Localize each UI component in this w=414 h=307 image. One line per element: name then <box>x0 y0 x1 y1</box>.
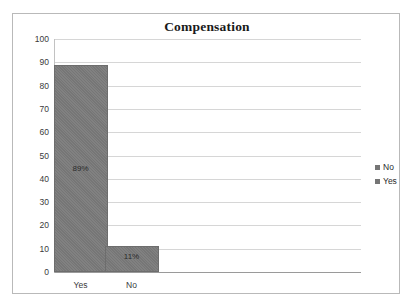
y-axis-tick-label: 0 <box>44 267 49 277</box>
y-axis-tick-label: 60 <box>40 127 49 137</box>
legend-swatch-icon <box>375 165 380 170</box>
plot-area: 010203040506070809010089%Yes11%No <box>54 39 361 273</box>
y-axis-tick-label: 10 <box>40 244 49 254</box>
legend-item-no[interactable]: No <box>375 160 409 174</box>
y-axis-tick-label: 40 <box>40 174 49 184</box>
bar-value-label: 11% <box>106 252 158 261</box>
page-cutoff-text-line: · · · · · · · · · · · · · · <box>10 0 92 3</box>
x-axis-tick-label: Yes <box>74 280 88 290</box>
legend-item-label: No <box>383 163 394 172</box>
legend-swatch-icon <box>375 179 380 184</box>
legend-item-label: Yes <box>383 177 397 186</box>
y-axis-tick-label: 80 <box>40 81 49 91</box>
gridline <box>55 39 361 40</box>
legend-item-yes[interactable]: Yes <box>375 174 409 188</box>
y-axis-tick-label: 20 <box>40 220 49 230</box>
chart-legend: NoYes <box>375 160 409 188</box>
y-axis-tick-label: 50 <box>40 151 49 161</box>
bar-no[interactable]: 11% <box>105 246 159 272</box>
bar-yes[interactable]: 89% <box>54 65 108 272</box>
y-axis-tick-label: 90 <box>40 57 49 67</box>
chart-title: Compensation <box>13 19 401 35</box>
chart-figure: Compensation 010203040506070809010089%Ye… <box>12 13 400 294</box>
bar-value-label: 89% <box>55 164 107 173</box>
y-axis-tick-label: 100 <box>35 34 49 44</box>
gridline <box>55 62 361 63</box>
x-axis-tick-label: No <box>126 280 137 290</box>
y-axis-tick-label: 70 <box>40 104 49 114</box>
page-cutoff-text: · · · · · · · · · · · · · · <box>0 0 414 11</box>
y-axis-tick-label: 30 <box>40 197 49 207</box>
